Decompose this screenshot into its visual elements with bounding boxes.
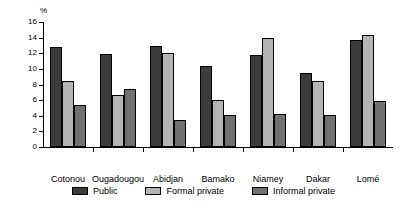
bar: [112, 95, 124, 147]
legend-label: Public: [93, 186, 118, 196]
legend-item: Formal private: [145, 186, 224, 196]
legend-swatch-icon: [252, 187, 268, 195]
bar: [250, 55, 262, 147]
x-axis-tick: [293, 148, 294, 152]
plot-area: 0246810121416 CotonouOugadougouAbidjanBa…: [43, 22, 393, 147]
y-axis-tick: [39, 116, 43, 117]
y-axis-tick: [39, 85, 43, 86]
y-axis-tick-label: 14: [28, 34, 37, 42]
y-axis-tick-label: 16: [28, 18, 37, 26]
x-axis-tick: [193, 148, 194, 152]
y-axis-tick: [39, 69, 43, 70]
x-axis-tick: [143, 148, 144, 152]
y-axis-tick: [39, 53, 43, 54]
bar: [100, 54, 112, 147]
y-axis-tick-label: 10: [28, 65, 37, 73]
bar: [62, 81, 74, 147]
y-axis-tick-label: 12: [28, 49, 37, 57]
bar: [74, 105, 86, 147]
legend-label: Informal private: [273, 186, 335, 196]
y-axis-tick: [39, 131, 43, 132]
x-axis-category-label: Bamako: [201, 174, 234, 185]
bar: [174, 120, 186, 147]
y-axis-tick-label: 6: [33, 96, 37, 104]
y-axis-tick-label: 4: [33, 112, 37, 120]
legend-item: Public: [72, 186, 118, 196]
y-axis-unit-label: %: [40, 6, 47, 16]
y-axis-tick-label: 8: [33, 81, 37, 89]
x-axis-category-label: Dakar: [306, 174, 330, 185]
bar: [162, 53, 174, 147]
y-axis-tick: [39, 38, 43, 39]
bar: [312, 81, 324, 147]
bar: [200, 66, 212, 147]
bar: [300, 73, 312, 147]
bar: [150, 46, 162, 147]
x-axis-line: [43, 147, 393, 148]
y-axis-tick-label: 2: [33, 127, 37, 135]
bar: [224, 115, 236, 147]
x-axis-tick: [93, 148, 94, 152]
x-axis-tick: [243, 148, 244, 152]
x-axis-category-label: Lomé: [357, 174, 380, 185]
legend-swatch-icon: [145, 187, 161, 195]
legend-item: Informal private: [252, 186, 335, 196]
bar: [324, 115, 336, 147]
x-axis-category-label: Ougadougou: [92, 174, 144, 185]
y-axis-line: [43, 22, 44, 148]
x-axis-category-label: Abidjan: [153, 174, 183, 185]
y-axis-tick: [39, 147, 43, 148]
x-axis-category-label: Cotonou: [51, 174, 85, 185]
bar: [212, 100, 224, 147]
bar: [262, 38, 274, 147]
y-axis-tick-label: 0: [33, 143, 37, 151]
bar: [374, 101, 386, 147]
y-axis-tick: [39, 22, 43, 23]
x-axis-tick: [343, 148, 344, 152]
legend-swatch-icon: [72, 187, 88, 195]
bar: [350, 40, 362, 147]
bar: [274, 114, 286, 147]
chart-legend: PublicFormal privateInformal private: [0, 186, 407, 196]
bar: [124, 89, 136, 147]
y-axis-tick: [39, 100, 43, 101]
bar-chart: % 0246810121416 CotonouOugadougouAbidjan…: [0, 0, 407, 211]
bar: [50, 47, 62, 147]
legend-label: Formal private: [166, 186, 224, 196]
x-axis-category-label: Niamey: [253, 174, 284, 185]
bar: [362, 35, 374, 147]
